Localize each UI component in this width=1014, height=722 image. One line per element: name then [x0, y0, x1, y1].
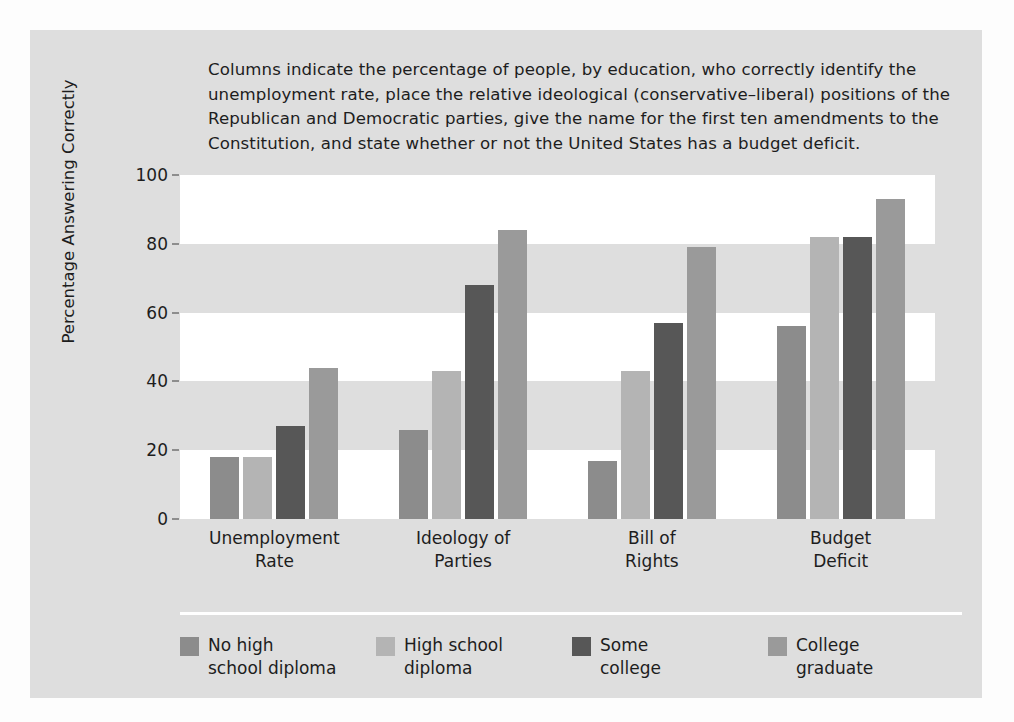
y-tick-mark — [172, 518, 179, 520]
legend-item[interactable]: College graduate — [768, 634, 964, 680]
bar — [654, 323, 683, 519]
bar — [621, 371, 650, 519]
legend-divider — [180, 612, 962, 615]
y-tick-label: 60 — [108, 303, 168, 323]
bar — [810, 237, 839, 519]
bar — [243, 457, 272, 519]
bar — [777, 326, 806, 519]
bar — [432, 371, 461, 519]
x-axis-label: Bill of Rights — [558, 527, 747, 573]
legend-label: High school diploma — [404, 634, 503, 680]
legend-label: Some college — [600, 634, 661, 680]
y-tick-label: 40 — [108, 371, 168, 391]
bar — [588, 461, 617, 519]
legend-swatch-icon — [376, 637, 395, 656]
y-tick-label: 0 — [108, 509, 168, 529]
bar — [498, 230, 527, 519]
y-tick-label: 20 — [108, 440, 168, 460]
bar-group — [369, 175, 558, 519]
y-tick-mark — [172, 380, 179, 382]
bar — [399, 430, 428, 519]
chart-legend: No high school diplomaHigh school diplom… — [180, 634, 970, 680]
legend-item[interactable]: Some college — [572, 634, 768, 680]
figure-panel: Columns indicate the percentage of peopl… — [30, 30, 982, 698]
legend-swatch-icon — [768, 637, 787, 656]
y-tick-mark — [172, 243, 179, 245]
bar-group — [180, 175, 369, 519]
bar — [210, 457, 239, 519]
bar — [876, 199, 905, 519]
y-tick-mark — [172, 174, 179, 176]
y-tick-mark — [172, 449, 179, 451]
bar — [465, 285, 494, 519]
legend-label: No high school diploma — [208, 634, 336, 680]
y-tick-mark — [172, 312, 179, 314]
x-axis-label: Ideology of Parties — [369, 527, 558, 573]
bar — [309, 368, 338, 519]
bar-group — [558, 175, 747, 519]
y-tick-label: 80 — [108, 234, 168, 254]
plot-wrapper: Percentage Answering Correctly 020406080… — [30, 30, 982, 698]
legend-swatch-icon — [180, 637, 199, 656]
legend-item[interactable]: High school diploma — [376, 634, 572, 680]
legend-swatch-icon — [572, 637, 591, 656]
bar-groups — [180, 175, 935, 519]
legend-item[interactable]: No high school diploma — [180, 634, 376, 680]
y-axis-title: Percentage Answering Correctly — [59, 42, 78, 382]
x-axis-label: Unemployment Rate — [180, 527, 369, 573]
bar — [276, 426, 305, 519]
y-tick-label: 100 — [108, 165, 168, 185]
plot-area — [180, 175, 935, 519]
bar — [843, 237, 872, 519]
bar-group — [746, 175, 935, 519]
bar — [687, 247, 716, 519]
x-axis-label: Budget Deficit — [746, 527, 935, 573]
legend-label: College graduate — [796, 634, 873, 680]
figure-container: Columns indicate the percentage of peopl… — [0, 0, 1014, 722]
x-axis-labels: Unemployment RateIdeology of PartiesBill… — [180, 527, 935, 573]
